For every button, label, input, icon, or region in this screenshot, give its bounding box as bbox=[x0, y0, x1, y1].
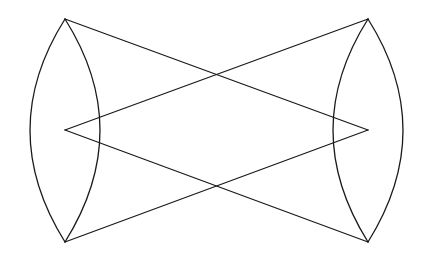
right-inner-arc bbox=[333, 19, 368, 242]
left-inner-arc bbox=[65, 19, 100, 242]
diagram-svg bbox=[0, 0, 428, 261]
right-outer-arc bbox=[368, 19, 403, 242]
diagram-canvas bbox=[0, 0, 428, 261]
lens-arcs bbox=[30, 19, 403, 242]
left-outer-arc bbox=[30, 19, 65, 242]
crossing-lines bbox=[65, 19, 368, 242]
